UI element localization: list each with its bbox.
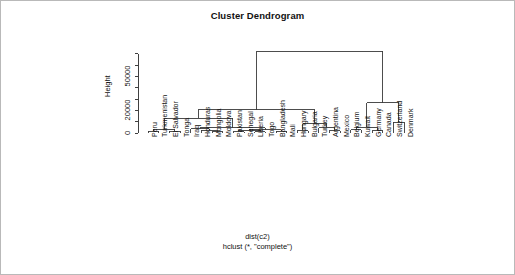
leaf-label: Belgium [353, 112, 360, 137]
leaf-label: Moldova [225, 111, 232, 137]
plot-window: Cluster Dendrogram Height 02000050000 Pe… [0, 0, 515, 275]
leaf-label: Senegal [247, 111, 254, 137]
leaf-label: Tonga [183, 118, 190, 137]
leaf-label: Mali [289, 124, 296, 137]
leaf-label: Kuwait [364, 116, 371, 137]
leaf-label: Liberia [257, 116, 264, 137]
leaf-label: Togo [268, 122, 275, 137]
leaf-label: Iraq [193, 125, 200, 137]
y-tick-label: 20000 [123, 100, 132, 121]
leaf-label: Turkmenistan [161, 95, 168, 137]
leaf-label: Switzerland [396, 101, 403, 137]
leaf-label: Canada [385, 112, 392, 137]
y-tick-label: 50000 [123, 66, 132, 87]
leaf-label: Hungary [300, 111, 307, 137]
leaf-label: Bangladesh [279, 100, 286, 137]
leaf-label: Turkey [321, 116, 328, 137]
leaf-label: Pakistan [236, 110, 243, 137]
x-axis-caption-method: hclust (*, "complete") [1, 242, 514, 251]
leaf-label: Argentina [332, 107, 339, 137]
leaf-label: Mongolia [215, 109, 222, 137]
dendrogram-plot: Cluster Dendrogram Height 02000050000 Pe… [1, 1, 514, 274]
y-tick-label: 0 [123, 131, 132, 135]
leaf-label: Bulgaria [311, 111, 318, 137]
leaf-label: El Salvador [172, 101, 179, 137]
leaf-label: Mexico [343, 115, 350, 137]
leaf-label: Germany [375, 108, 382, 137]
leaf-label: Denmark [407, 109, 414, 137]
leaf-label: Peru [151, 122, 158, 137]
leaf-label: Honduras [204, 107, 211, 137]
x-axis-caption-distance: dist(c2) [1, 232, 514, 241]
